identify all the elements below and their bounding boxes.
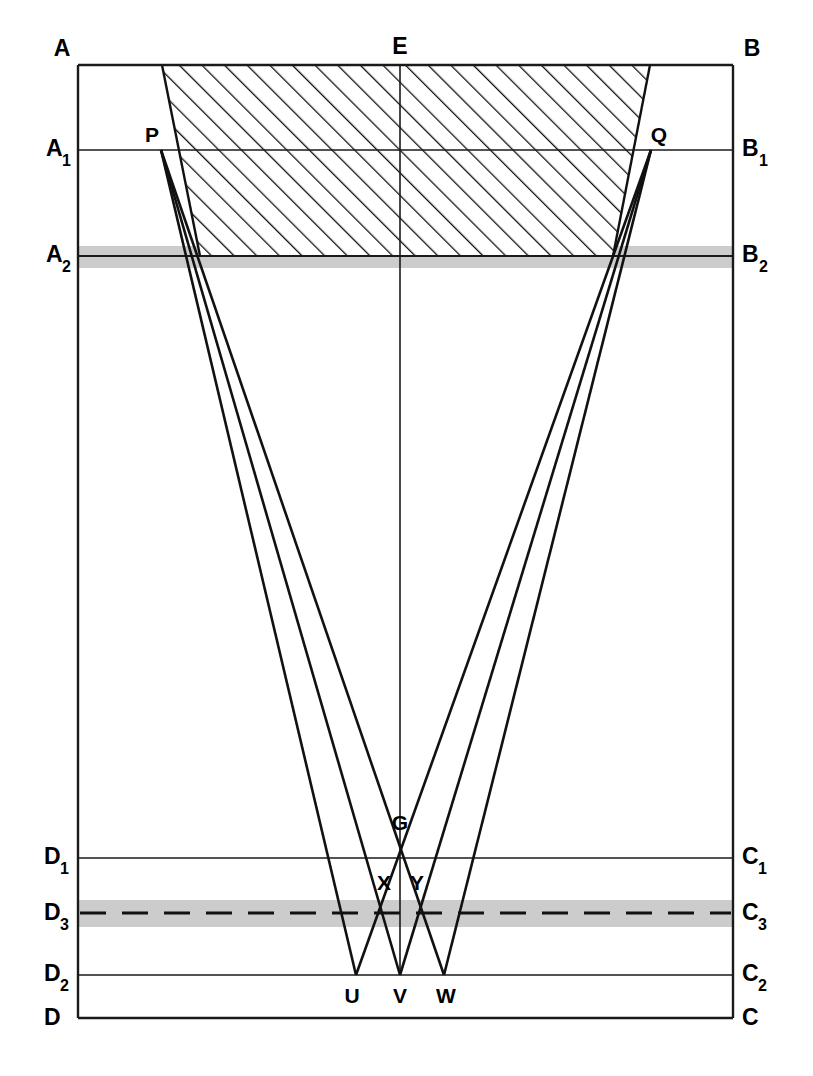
svg-text:3: 3	[60, 916, 69, 933]
svg-text:1: 1	[62, 152, 71, 169]
svg-text:3: 3	[758, 916, 767, 933]
svg-text:1: 1	[60, 860, 69, 877]
svg-text:2: 2	[759, 258, 768, 275]
svg-text:1: 1	[758, 860, 767, 877]
label-B1: B 1	[742, 135, 768, 169]
label-A2: A 2	[46, 241, 71, 275]
label-C2: C 2	[742, 960, 767, 994]
label-point-G: G	[392, 811, 408, 834]
svg-text:2: 2	[758, 977, 767, 994]
figure-canvas: A B E A 1 A 2 D 1 D 3 D 2 D B 1 B	[0, 0, 813, 1076]
label-A1: A 1	[46, 135, 71, 169]
svg-text:B: B	[742, 241, 759, 267]
svg-text:D: D	[44, 843, 61, 869]
label-point-Q: Q	[651, 123, 667, 146]
label-C1: C 1	[742, 843, 767, 877]
svg-text:B: B	[742, 135, 759, 161]
label-point-P: P	[145, 123, 159, 146]
label-corner-C: C	[742, 1004, 759, 1030]
hatched-beam-region	[162, 65, 650, 256]
label-corner-B: B	[744, 35, 761, 61]
label-D3: D 3	[44, 899, 69, 933]
label-point-V: V	[393, 984, 407, 1007]
label-point-Y: Y	[410, 871, 424, 894]
svg-text:D: D	[44, 899, 61, 925]
svg-text:A: A	[46, 135, 63, 161]
label-point-E: E	[392, 33, 407, 59]
svg-text:C: C	[742, 899, 759, 925]
svg-text:C: C	[742, 843, 759, 869]
svg-text:C: C	[742, 960, 759, 986]
label-point-U: U	[344, 984, 359, 1007]
label-B2: B 2	[742, 241, 768, 275]
label-D2: D 2	[44, 960, 69, 994]
svg-text:2: 2	[60, 977, 69, 994]
label-point-W: W	[436, 984, 456, 1007]
label-point-X: X	[377, 871, 391, 894]
ray-diagram-svg: A B E A 1 A 2 D 1 D 3 D 2 D B 1 B	[0, 0, 813, 1076]
svg-text:2: 2	[62, 258, 71, 275]
label-corner-D: D	[44, 1004, 61, 1030]
label-C3: C 3	[742, 899, 767, 933]
svg-text:D: D	[44, 960, 61, 986]
svg-text:1: 1	[759, 152, 768, 169]
label-corner-A: A	[54, 35, 71, 61]
svg-text:A: A	[46, 241, 63, 267]
label-D1: D 1	[44, 843, 69, 877]
